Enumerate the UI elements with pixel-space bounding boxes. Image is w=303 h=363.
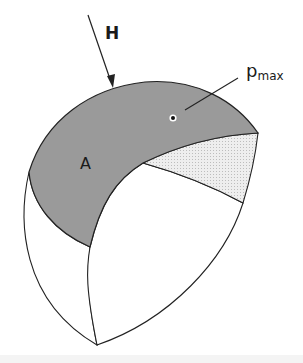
footer-band	[0, 355, 303, 363]
pmax-point	[171, 116, 175, 120]
force-arrow-head	[107, 74, 115, 88]
area-label-a: A	[80, 156, 91, 172]
pressure-label-main: p	[246, 60, 257, 81]
force-label-h: H	[105, 25, 119, 42]
diagram-canvas	[0, 0, 303, 363]
ellipsoid-diagram	[0, 0, 303, 363]
pressure-label-pmax: pmax	[246, 62, 284, 82]
pressure-label-sub: max	[257, 69, 283, 83]
